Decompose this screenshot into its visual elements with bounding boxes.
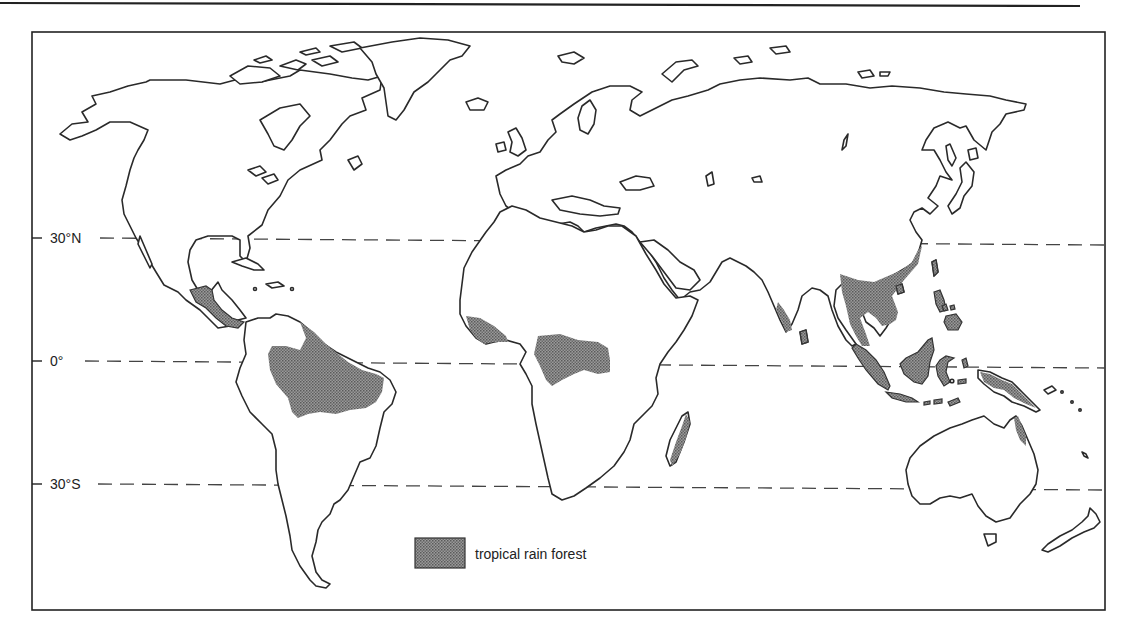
forest-sri-lanka [800, 330, 808, 344]
page-top-rule [0, 3, 1080, 6]
lat-label-30n: 30°N [50, 230, 81, 246]
lat-label-30s: 30°S [50, 476, 81, 492]
legend: tropical rain forest [415, 538, 586, 568]
australia [906, 416, 1100, 552]
world-map: 30°N 0° 30°S [0, 0, 1122, 635]
lat-label-equator: 0° [50, 353, 63, 369]
legend-swatch [415, 538, 465, 568]
north-america [60, 38, 470, 328]
legend-label: tropical rain forest [475, 546, 586, 562]
forest-hainan [896, 284, 904, 294]
